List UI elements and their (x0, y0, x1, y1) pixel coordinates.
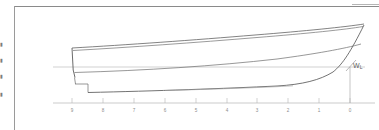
waterline-label-main: W (353, 62, 360, 69)
sheer-line-outer (72, 24, 364, 48)
station-tick-label: 1 (318, 108, 320, 113)
station-tick-label: 8 (102, 108, 104, 113)
station-tick-label: 9 (71, 108, 73, 113)
station-tick-label: 5 (195, 108, 197, 113)
deck-edge-line (75, 44, 362, 73)
station-tick-label: 4 (226, 108, 228, 113)
margin-fragment: ▮ (0, 74, 9, 79)
figure-page: ▮ ▮ ▮ ▮ (0, 0, 379, 130)
station-tick-group (72, 98, 350, 103)
waterline-label: WL (353, 62, 363, 70)
station-tick-label: 7 (133, 108, 135, 113)
margin-fragment: ▮ (0, 42, 9, 47)
waterline-label-sub: L (360, 64, 363, 70)
margin-fragment: ▮ (0, 92, 9, 97)
margin-fragment: ▮ (0, 58, 9, 63)
page-rule-top-right (352, 4, 379, 5)
hull-profile-drawing: WL 9876543210 (15, 7, 379, 130)
station-tick-label: 2 (287, 108, 289, 113)
margin-text-fragments: ▮ ▮ ▮ ▮ (0, 42, 12, 110)
skeg-forward-edge (75, 78, 76, 85)
station-tick-label: 6 (164, 108, 166, 113)
sheer-line-inner (73, 27, 363, 51)
stem-post (72, 48, 75, 78)
station-tick-label: 0 (349, 108, 351, 113)
keel-bottom-profile (88, 25, 364, 93)
station-tick-label: 3 (256, 108, 258, 113)
